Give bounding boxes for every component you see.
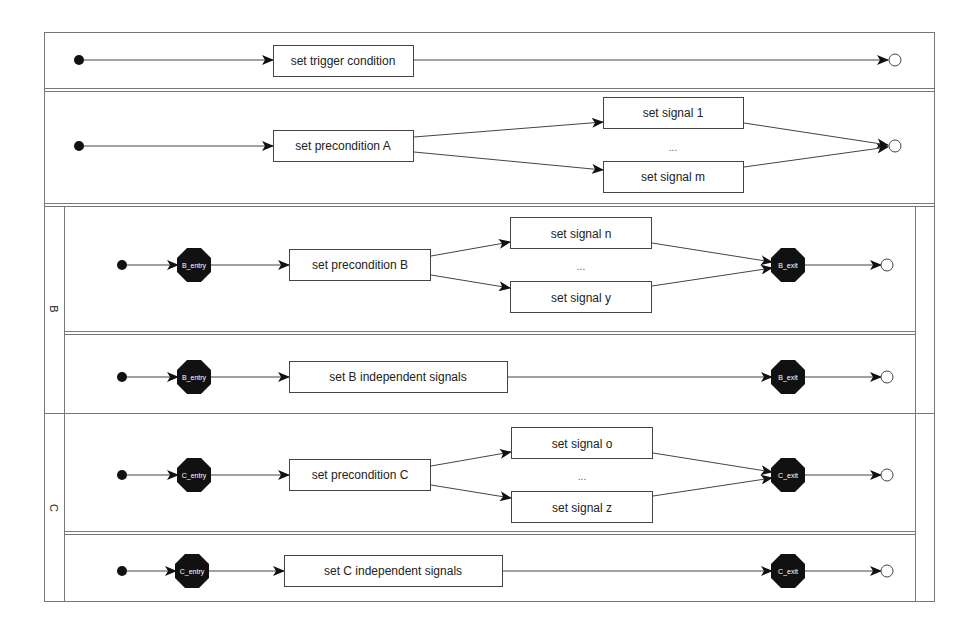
action-set-b-independent-signals[interactable]: set B independent signals (290, 362, 508, 393)
svg-text:set signal n: set signal n (551, 227, 612, 241)
action-set-signal-y[interactable]: set signal y (511, 282, 652, 313)
row-precondition-a: set precondition A set signal 1 ... set … (74, 98, 901, 193)
lane-label-b: B (48, 305, 60, 312)
action-set-precondition-b[interactable]: set precondition B (290, 250, 431, 281)
action-set-signal-z[interactable]: set signal z (512, 492, 653, 523)
action-set-c-independent-signals[interactable]: set C independent signals (285, 556, 503, 587)
svg-text:set signal z: set signal z (552, 501, 612, 515)
exit-point-c: C_exit (771, 554, 805, 588)
svg-text:C_exit: C_exit (778, 472, 798, 480)
action-set-precondition-c[interactable]: set precondition C (290, 460, 431, 491)
action-set-precondition-a[interactable]: set precondition A (274, 131, 414, 162)
svg-text:C_entry: C_entry (180, 568, 205, 576)
svg-text:B_exit: B_exit (778, 374, 798, 382)
ellipsis: ... (577, 261, 585, 272)
svg-text:B_entry: B_entry (182, 262, 207, 270)
svg-text:C_entry: C_entry (182, 472, 207, 480)
final-node (889, 54, 901, 66)
ellipsis: ... (669, 142, 677, 153)
initial-node (117, 566, 127, 576)
svg-text:set precondition A: set precondition A (295, 139, 390, 153)
initial-node (117, 470, 127, 480)
row-b-independent: B_entry set B independent signals B_exit (117, 360, 893, 394)
initial-node (74, 55, 84, 65)
action-set-signal-m[interactable]: set signal m (604, 162, 744, 193)
svg-text:B_exit: B_exit (778, 262, 798, 270)
diagram-frame (44, 33, 935, 603)
action-set-signal-1[interactable]: set signal 1 (604, 98, 744, 129)
svg-text:set C independent signals: set C independent signals (324, 564, 462, 578)
action-set-signal-o[interactable]: set signal o (512, 428, 653, 459)
row-c-independent: C_entry set C independent signals C_exit (117, 554, 893, 588)
initial-node (117, 260, 127, 270)
svg-text:set precondition C: set precondition C (312, 468, 409, 482)
ellipsis: ... (578, 471, 586, 482)
svg-text:set B independent signals: set B independent signals (329, 370, 466, 384)
entry-point-c: C_entry (177, 458, 211, 492)
row-trigger: set trigger condition (74, 46, 901, 77)
svg-text:set signal y: set signal y (551, 291, 611, 305)
initial-node (117, 372, 127, 382)
svg-text:set signal 1: set signal 1 (643, 106, 704, 120)
row-b-dependent: B_entry set precondition B set signal n … (117, 218, 893, 313)
lane-label-c: C (48, 504, 60, 512)
svg-text:set trigger condition: set trigger condition (291, 54, 396, 68)
final-node (881, 371, 893, 383)
row-c-dependent: C_entry set precondition C set signal o … (117, 428, 893, 523)
svg-text:B_entry: B_entry (182, 374, 207, 382)
action-set-signal-n[interactable]: set signal n (511, 218, 652, 249)
activity-diagram: B C set trigger condition set preconditi… (0, 0, 973, 630)
exit-point-c: C_exit (771, 458, 805, 492)
final-node (881, 565, 893, 577)
entry-point-b: B_entry (177, 360, 211, 394)
svg-text:set precondition B: set precondition B (312, 258, 408, 272)
action-set-trigger-condition[interactable]: set trigger condition (274, 46, 414, 77)
svg-text:set signal o: set signal o (552, 437, 613, 451)
initial-node (74, 141, 84, 151)
entry-point-b: B_entry (177, 248, 211, 282)
svg-text:C_exit: C_exit (778, 568, 798, 576)
exit-point-b: B_exit (771, 248, 805, 282)
svg-text:set signal m: set signal m (641, 170, 705, 184)
entry-point-c: C_entry (175, 554, 209, 588)
final-node (889, 140, 901, 152)
final-node (881, 469, 893, 481)
final-node (881, 259, 893, 271)
exit-point-b: B_exit (771, 360, 805, 394)
